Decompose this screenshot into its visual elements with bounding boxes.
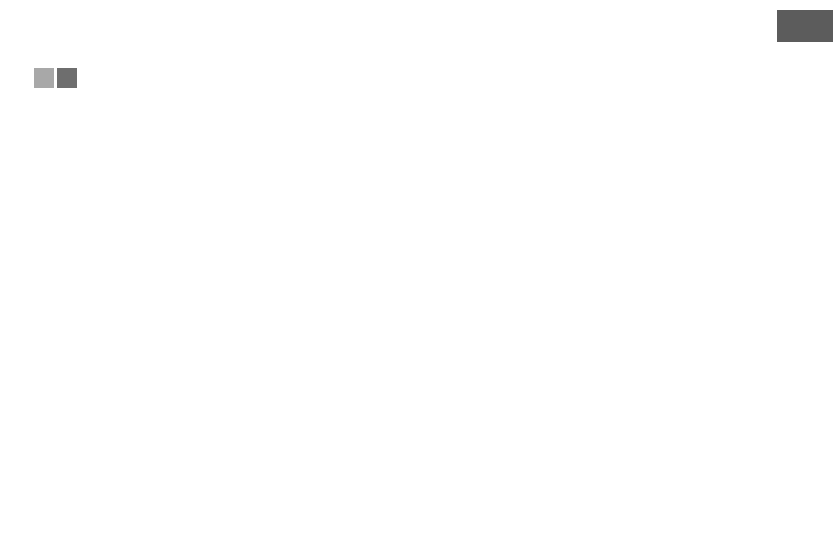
y-axis-ticks [88,0,136,558]
x-axis-ticks [0,525,834,545]
stacked-area-chart [0,0,834,558]
